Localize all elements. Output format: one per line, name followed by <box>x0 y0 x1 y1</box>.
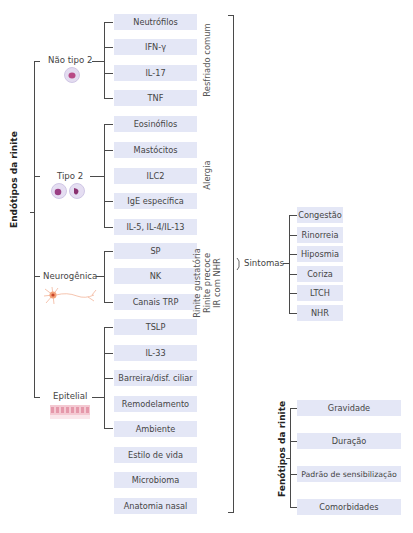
tick <box>289 215 297 216</box>
tick <box>104 302 113 303</box>
tick <box>104 98 113 99</box>
spine-tick <box>34 397 40 398</box>
spine-tick <box>34 176 40 177</box>
symptom-hiposmia: Hiposmia <box>297 246 343 262</box>
tick <box>104 327 113 328</box>
tick <box>104 201 113 202</box>
bracket <box>104 22 105 98</box>
bracket <box>289 215 290 313</box>
group-label-nao-tipo-2: Não tipo 2 <box>48 55 92 65</box>
group-label-neurogenica: Neurogênica <box>43 271 97 281</box>
tick <box>104 22 113 23</box>
tick <box>104 227 113 228</box>
endotype-item-sp: SP <box>114 243 197 259</box>
condition-other: Rinite gustatória Rinite precoce IR com … <box>192 243 222 323</box>
bracket <box>104 124 105 227</box>
tick <box>289 254 297 255</box>
endotype-item-il5-il4-il13: IL-5, IL-4/IL-13 <box>114 219 197 235</box>
tick <box>290 474 297 475</box>
connector <box>92 397 104 398</box>
symptom-ltch: LTCH <box>297 285 343 301</box>
spine-tick <box>34 276 40 277</box>
endotype-item-ifn-gamma: IFN-γ <box>114 39 197 55</box>
endotype-item-barreira: Barreira/disf. ciliar <box>114 370 197 386</box>
endotype-item-neutrofilos: Neutrófilos <box>114 14 197 30</box>
group-label-tipo-2: Tipo 2 <box>57 171 83 181</box>
tick <box>290 408 297 409</box>
endotype-item-remodelamento: Remodelamento <box>114 396 197 412</box>
tick <box>290 507 297 508</box>
factor-ambiente: Ambiente <box>114 421 197 437</box>
tick <box>290 441 297 442</box>
endotype-item-eosinofilos: Eosinófilos <box>114 116 197 132</box>
tick <box>104 251 113 252</box>
tick <box>104 378 113 379</box>
tick <box>289 235 297 236</box>
phenotypes-title: Fenótipos da rinite <box>277 417 287 497</box>
connector <box>96 276 104 277</box>
bracket <box>290 408 291 507</box>
connector <box>90 176 104 177</box>
connector <box>92 61 104 62</box>
tick <box>289 313 297 314</box>
endotype-item-canais-trp: Canais TRP <box>114 294 197 310</box>
tick <box>104 150 113 151</box>
tick <box>289 274 297 275</box>
endotype-item-nk: NK <box>114 268 197 284</box>
tick <box>104 47 113 48</box>
large-bracket-top <box>228 15 234 16</box>
tick <box>104 73 113 74</box>
tick <box>104 124 113 125</box>
spine-mid-tick <box>30 212 35 213</box>
group-label-epitelial: Epitelial <box>53 391 87 401</box>
factor-estilo-de-vida: Estilo de vida <box>114 447 197 463</box>
bracket <box>104 251 105 302</box>
cell-icon <box>64 67 80 83</box>
epithelium-icon <box>50 405 90 419</box>
phenotype-comorbidades: Comorbidades <box>297 499 401 515</box>
endotype-item-mastocitos: Mastócitos <box>114 142 197 158</box>
granulocyte-icons <box>50 182 90 200</box>
main-spine <box>34 61 35 397</box>
condition-allergy: Alergia <box>202 155 212 195</box>
endotype-item-ilc2: ILC2 <box>114 168 197 184</box>
condition-ir-com-nhr: IR com NHR <box>212 243 222 323</box>
factor-anatomia-nasal: Anatomia nasal <box>114 498 197 514</box>
symptoms-label: Sintomas <box>244 258 284 268</box>
condition-rinite-precoce: Rinite precoce <box>202 243 212 323</box>
tick <box>104 428 113 429</box>
endotype-item-il-17: IL-17 <box>114 65 197 81</box>
symptom-rinorreia: Rinorreia <box>297 227 343 243</box>
condition-common-cold: Resfriado comum <box>202 20 212 100</box>
endotype-item-tnf: TNF <box>114 90 197 106</box>
endotype-item-tslp: TSLP <box>114 319 197 335</box>
spine-tick <box>34 61 40 62</box>
brace-icon <box>236 258 242 270</box>
symptom-nhr: NHR <box>297 305 343 321</box>
tick <box>104 353 113 354</box>
condition-rinite-gustatoria: Rinite gustatória <box>192 243 202 323</box>
neuron-icon <box>42 286 98 306</box>
tick <box>289 293 297 294</box>
large-bracket-bottom <box>228 512 234 513</box>
endotype-item-il-33: IL-33 <box>114 345 197 361</box>
phenotype-gravidade: Gravidade <box>297 400 401 416</box>
symptom-congestao: Congestão <box>297 207 343 223</box>
factor-microbioma: Microbioma <box>114 472 197 488</box>
large-bracket <box>233 15 234 513</box>
phenotype-padrao-sensibilizacao: Padrão de sensibilização <box>297 466 401 482</box>
endotype-item-ige: IgE específica <box>114 193 197 209</box>
symptom-coriza: Coriza <box>297 266 343 282</box>
phenotype-duracao: Duração <box>297 433 401 449</box>
endotypes-title: Endótipos da rinite <box>9 148 19 228</box>
